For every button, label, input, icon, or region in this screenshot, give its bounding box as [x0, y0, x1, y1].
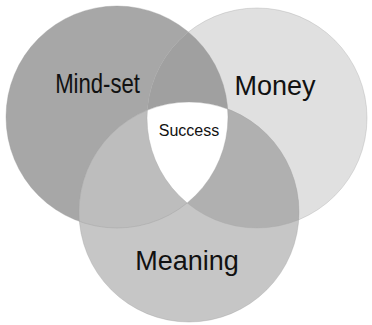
label-money: Money [234, 71, 316, 101]
label-mindset: Mind-set [55, 69, 140, 99]
label-meaning: Meaning [135, 246, 239, 276]
label-success: Success [159, 122, 219, 139]
venn-diagram: Mind-set Money Meaning Success [0, 0, 372, 325]
